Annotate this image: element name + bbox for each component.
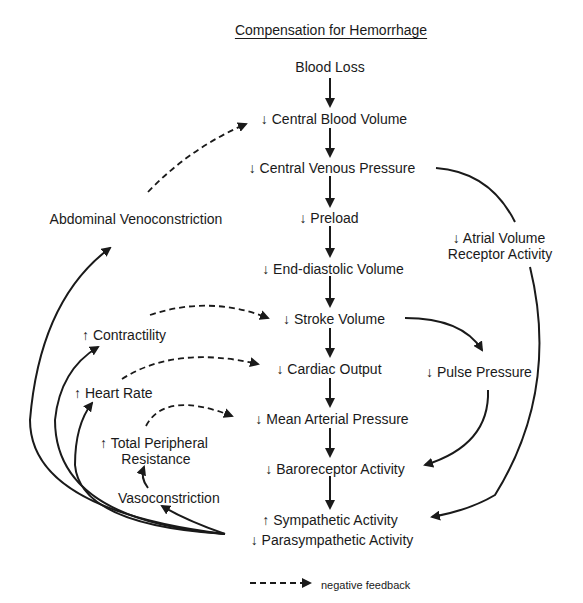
node-blood-loss: Blood Loss: [295, 59, 364, 75]
arc-auto-heartrate: [75, 403, 225, 534]
arc-atrial-symp: [432, 267, 539, 517]
node-stroke-volume: ↓ Stroke Volume: [283, 311, 385, 327]
feedback-heartrate-co: [122, 357, 258, 379]
feedback-contractility-sv: [150, 306, 268, 318]
arc-pulse-baro: [425, 390, 488, 465]
legend-negative-feedback: negative feedback: [321, 577, 410, 593]
node-heart-rate: ↑ Heart Rate: [74, 385, 153, 401]
feedback-abdominal-cbv: [148, 124, 246, 192]
feedback-tpr-map: [146, 405, 232, 426]
node-end-diastolic-volume: ↓ End-diastolic Volume: [262, 261, 404, 277]
node-preload: ↓ Preload: [299, 210, 358, 226]
node-atrial-volume-line2: Receptor Activity: [448, 246, 552, 262]
node-cardiac-output: ↓ Cardiac Output: [276, 361, 381, 377]
node-vasoconstriction: Vasoconstriction: [118, 490, 220, 506]
node-atrial-volume-line1: ↓ Atrial Volume: [453, 230, 546, 246]
node-sympathetic-activity: ↑ Sympathetic Activity: [262, 512, 397, 528]
node-mean-arterial-pressure: ↓ Mean Arterial Pressure: [255, 411, 408, 427]
arc-sv-pulse: [405, 318, 482, 350]
arc-cvp-atrial: [436, 168, 515, 222]
node-central-venous-pressure: ↓ Central Venous Pressure: [249, 160, 416, 176]
node-central-blood-volume: ↓ Central Blood Volume: [261, 111, 407, 127]
node-tpr-line1: ↑ Total Peripheral: [100, 435, 208, 451]
node-tpr-line2: Resistance: [121, 451, 190, 467]
node-parasympathetic-activity: ↓ Parasympathetic Activity: [251, 532, 414, 548]
node-abdominal-venoconstriction: Abdominal Venoconstriction: [50, 211, 223, 227]
node-contractility: ↑ Contractility: [82, 327, 166, 343]
node-baroreceptor-activity: ↓ Baroreceptor Activity: [265, 461, 404, 477]
diagram-title: Compensation for Hemorrhage: [235, 22, 427, 38]
node-pulse-pressure: ↓ Pulse Pressure: [426, 364, 532, 380]
arrow-vaso-tpr: [143, 467, 148, 488]
